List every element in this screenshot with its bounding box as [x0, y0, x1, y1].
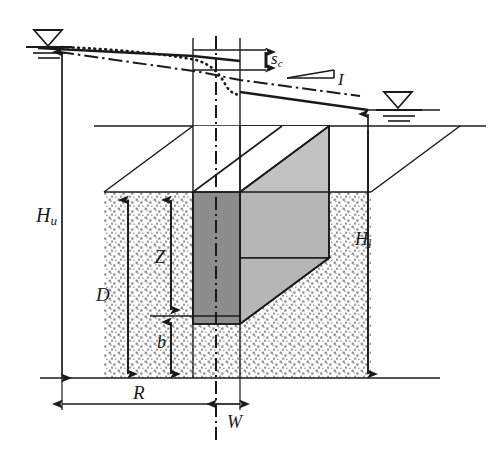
label-hl-base: H: [355, 229, 368, 249]
label-hu-base: H: [36, 204, 50, 226]
water-triangle-left: [34, 30, 62, 46]
label-thickness-b: b: [157, 333, 166, 351]
label-settlement-sc: sc: [271, 50, 283, 69]
label-depth-z: Z: [155, 248, 165, 266]
label-hu-sub: u: [50, 213, 57, 228]
label-radius-r: R: [133, 383, 145, 402]
water-table-right-symbol: [376, 92, 422, 121]
label-downstream-head: Hl: [355, 230, 371, 251]
figure-canvas: Hu Hl D Z b R W sc I: [0, 0, 488, 450]
ground-plane-left-edge: [104, 126, 193, 192]
slope-marker-hyp: [287, 70, 334, 78]
label-half-width-w: W: [227, 413, 242, 431]
label-hl-sub: l: [368, 237, 371, 251]
label-sc-sub: c: [278, 57, 283, 69]
gradient-slope-marker: [287, 70, 334, 78]
trench-front-face: [193, 192, 240, 324]
label-gradient-i: I: [338, 71, 344, 88]
water-table-left-symbol: [26, 30, 72, 58]
label-depth-d: D: [96, 285, 110, 304]
diagram-svg: [0, 0, 488, 450]
water-triangle-right: [384, 92, 412, 108]
trench-floor-panel: [240, 192, 329, 258]
ground-plane-right-edge: [371, 126, 460, 192]
label-sc-base: s: [271, 49, 278, 68]
lower-ground-right: [240, 92, 368, 110]
label-upstream-head: Hu: [36, 205, 57, 228]
